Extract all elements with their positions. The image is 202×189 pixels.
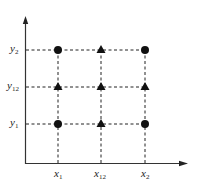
circle-marker-x1-y2	[54, 46, 62, 54]
grid-diagram	[0, 0, 202, 189]
circle-marker-x1-y1	[54, 120, 62, 128]
y-label-y1: y1	[10, 117, 18, 130]
y-axis-arrowhead	[23, 16, 28, 24]
x-label-sub: 2	[146, 173, 150, 181]
x-axis-arrowhead	[179, 161, 188, 166]
triangle-marker-x12-y2	[97, 45, 106, 53]
y-label-y2: y2	[10, 43, 18, 56]
triangle-marker-x12-y1	[97, 119, 106, 127]
triangle-marker-x1-y12	[54, 82, 63, 90]
y-label-sub: 2	[15, 48, 19, 56]
y-label-y12: y12	[7, 80, 19, 93]
x-label-x2: x2	[141, 168, 149, 181]
circle-marker-x2-y2	[141, 46, 149, 54]
y-label-sub: 12	[12, 85, 19, 93]
x-label-x12: x12	[94, 168, 106, 181]
triangle-marker-x12-y12	[97, 82, 106, 90]
triangle-marker-x2-y12	[141, 82, 150, 90]
y-label-sub: 1	[15, 122, 19, 130]
circle-marker-x2-y1	[141, 120, 149, 128]
x-label-x1: x1	[54, 168, 62, 181]
x-label-sub: 12	[99, 173, 106, 181]
x-label-sub: 1	[59, 173, 63, 181]
